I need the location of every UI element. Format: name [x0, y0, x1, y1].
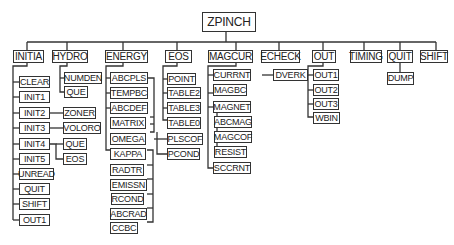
energy-child-radtr: RADTR [110, 164, 144, 176]
energy-child-abcpls: ABCPLS [110, 72, 148, 84]
energy-child-kappa: KAPPA [110, 148, 146, 160]
eos-child-plscof: PLSCOF [167, 133, 203, 145]
initia-child-shift: SHIFT [19, 198, 50, 210]
magcur-child-magnet: MAGNET [213, 101, 251, 113]
module-energy: ENERGY [105, 50, 148, 63]
eos-child-pcond: PCOND [167, 148, 200, 160]
module-magcur: MAGCUR [208, 50, 253, 63]
energy-child-omega: OMEGA [110, 133, 146, 145]
module-out: OUT [312, 50, 336, 63]
init3-child-voloro: VOLORO [63, 122, 101, 134]
magcur-child-magbc: MAGBC [213, 84, 247, 96]
initia-child-quit: QUIT [19, 183, 50, 195]
out-child-out2: OUT2 [313, 84, 339, 96]
energy-child-abcdef: ABCDEF [110, 102, 148, 114]
module-timing: TIMING [350, 50, 382, 63]
module-quit: QUIT [387, 50, 413, 63]
energy-child-rcond: RCOND [111, 193, 144, 205]
initia-child-init2: INIT2 [19, 107, 50, 119]
initia-child-init1: INIT1 [19, 91, 50, 103]
eos-child-table2: TABLE2 [167, 87, 201, 99]
energy-child-emissn: EMISSN [110, 179, 147, 191]
module-eos: EOS [165, 50, 192, 63]
eos-child-table3: TABLE3 [167, 102, 201, 114]
magcur-child-currnt: CURRNT [213, 69, 251, 81]
hydro-child-que: QUE [64, 86, 88, 98]
out-child-out1: OUT1 [313, 69, 339, 81]
initia-child-init5: INIT5 [19, 153, 50, 165]
magcur-child-abcmag: ABCMAG [214, 116, 252, 128]
out-child-wbin: WBIN [313, 112, 340, 124]
magcur-child-sccrnt: SCCRNT [213, 162, 251, 174]
root-node-zpinch: ZPINCH [202, 12, 256, 32]
eos-child-table0: TABLE0 [167, 117, 201, 129]
init4-child-eos: EOS [63, 153, 87, 165]
energy-child-ccbc: CCBC [110, 222, 138, 234]
module-echeck: ECHECK [261, 50, 300, 63]
eos-child-point: POINT [167, 73, 196, 85]
module-initia: INITIA [13, 50, 44, 63]
energy-child-abcrad: ABCRAD [110, 208, 147, 220]
module-shift: SHIFT [420, 50, 448, 63]
quit-child-dump: DUMP [387, 72, 414, 85]
init4-child-que: QUE [63, 138, 87, 150]
initia-child-out1: OUT1 [19, 214, 50, 226]
magcur-child-resist: RESIST [214, 146, 247, 158]
out-child-out3: OUT3 [313, 98, 339, 110]
module-hydro: HYDRO [52, 50, 88, 63]
initia-child-init3: INIT3 [19, 122, 50, 134]
magcur-child-magcof: MAGCOF [214, 131, 252, 143]
energy-child-matrix: MATRIX [110, 117, 146, 129]
initia-child-unread: UNREAD [19, 168, 54, 180]
init2-child-zoner: ZONER [63, 107, 96, 119]
initia-child-clear: CLEAR [19, 76, 50, 88]
hydro-child-numden: NUMDEN [64, 72, 102, 84]
energy-child-tempbc: TEMPBC [110, 87, 148, 99]
currnt-child-dverk: DVERK [273, 69, 308, 81]
initia-child-init4: INIT4 [19, 138, 50, 150]
